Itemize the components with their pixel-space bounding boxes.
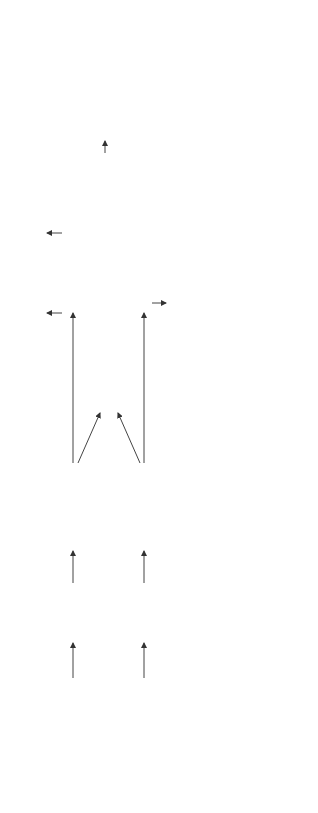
diagram-canvas <box>0 0 318 813</box>
connector-arrows <box>0 0 318 813</box>
